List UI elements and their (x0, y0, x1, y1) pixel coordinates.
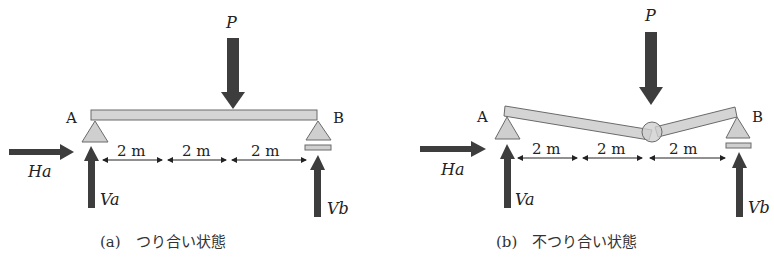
caption-b: (b) 不つり合い状態 (496, 233, 637, 251)
reaction-arrow-va (500, 144, 515, 208)
panel-a: P A B Ha Va Vb (9, 13, 349, 251)
dimension-label-1: 2 m (532, 140, 561, 158)
beam-diagrams: P A B Ha Va Vb (0, 0, 774, 260)
pin-support-a (82, 121, 108, 142)
dimension-label-3: 2 m (251, 142, 280, 160)
caption-a: (a) つり合い状態 (100, 233, 226, 251)
beam-segment-left (504, 106, 652, 140)
pin-support-a (495, 117, 520, 139)
beam-segment-right (655, 107, 737, 137)
roller-base-b (726, 143, 751, 148)
support-label-b: B (752, 108, 763, 126)
reaction-arrow-ha (9, 144, 74, 160)
reaction-label-vb: Vb (327, 199, 349, 218)
dimension-label-2: 2 m (182, 142, 211, 160)
reaction-label-ha: Ha (27, 162, 52, 181)
roller-base-b (305, 145, 331, 150)
dimension-label-3: 2 m (669, 140, 698, 158)
reaction-label-va: Va (100, 190, 120, 209)
dimension-label-1: 2 m (117, 142, 146, 160)
load-arrow-p (639, 32, 663, 105)
reaction-label-vb: Vb (748, 198, 770, 217)
hinge-circle (642, 122, 662, 142)
support-label-a: A (476, 108, 488, 126)
support-label-a: A (65, 109, 77, 127)
reaction-arrow-ha (420, 141, 486, 157)
reaction-label-va: Va (515, 190, 535, 209)
dimension-label-2: 2 m (597, 140, 626, 158)
panel-b: P A B Ha Va Vb (420, 6, 770, 251)
load-arrow-p (221, 38, 245, 109)
reaction-arrow-vb (732, 152, 747, 217)
support-label-b: B (333, 109, 344, 127)
beam (91, 110, 317, 120)
load-label-p: P (225, 13, 237, 32)
reaction-arrow-vb (310, 155, 325, 217)
roller-support-b (726, 117, 750, 138)
roller-support-b (306, 121, 331, 140)
load-label-p: P (644, 6, 656, 25)
reaction-label-ha: Ha (440, 160, 465, 179)
reaction-arrow-va (84, 146, 99, 208)
